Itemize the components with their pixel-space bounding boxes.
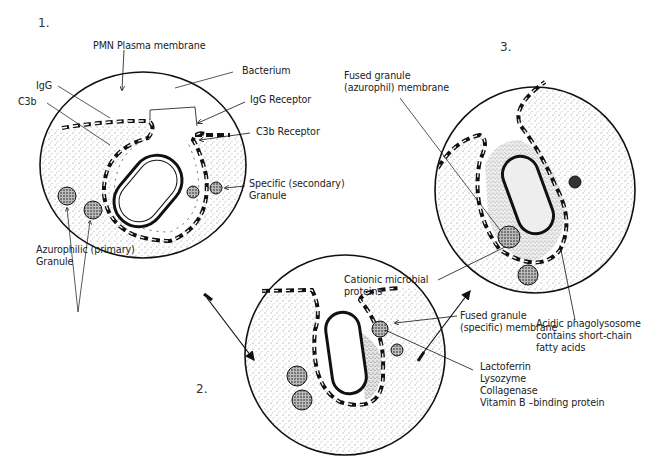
stage-number-3: 3. [500,40,511,54]
arrow-1-to-2 [207,298,254,360]
label-bacterium: Bacterium [242,65,291,77]
label-specific-granule: Specific (secondary) Granule [249,178,345,202]
label-fused-azurophil-membrane: Fused granule (azurophil) membrane [344,70,449,94]
label-acidic-phagolysosome: Acidic phagolysosome contains short-chai… [536,318,641,354]
label-c3b-receptor: C3b Receptor [256,126,320,138]
label-igg: IgG [36,80,52,92]
label-c3b: C3b [18,96,37,108]
label-cationic-microbial-proteins: Cationic microbial proteins [344,274,428,298]
cell-stage-1 [30,50,250,312]
label-pmn-plasma-membrane: PMN Plasma membrane [93,40,205,52]
stage-number-1: 1. [38,16,49,30]
label-azurophilic-granule: Azurophilic (primary) Granule [36,244,135,268]
cell-stage-3 [400,82,640,320]
label-specific-granule-contents: Lactoferrin Lysozyme Collagenase Vitamin… [480,361,605,409]
label-igg-receptor: IgG Receptor [250,94,311,106]
stage-number-2: 2. [196,382,207,396]
